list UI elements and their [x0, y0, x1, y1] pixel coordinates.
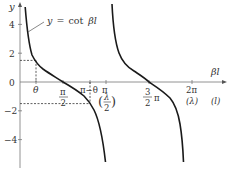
x-tick-pi-half-den: 2 — [61, 98, 66, 108]
x-axis-label: βl — [210, 66, 220, 77]
y-tick-minus-4: −4 — [4, 135, 18, 145]
x-tick-three-halves-num: 3 — [145, 87, 150, 97]
y-axis-arrow-icon — [18, 2, 22, 7]
lambda-half-den: 2 — [104, 103, 109, 113]
cot-chart: y 4 2 0 −2 −4 y = cot βl θ π 2 π−θ π ( λ… — [0, 0, 232, 173]
function-label: y = cot βl — [46, 15, 97, 26]
y-tick-4: 4 — [9, 20, 15, 30]
y-tick-2: 2 — [9, 49, 15, 59]
y-tick-minus-2: −2 — [4, 106, 17, 116]
x-tick-two-pi: 2π — [186, 85, 197, 95]
lambda-half-close-paren: ) — [111, 94, 116, 109]
x-tick-three-halves-den: 2 — [145, 98, 150, 108]
x-tick-three-halves-pi: π — [154, 93, 160, 103]
y-tick-0: 0 — [9, 78, 15, 88]
x-tick-lambda: (λ) — [186, 96, 198, 106]
x-axis-label-l: (l) — [211, 96, 220, 106]
lambda-half-num: λ — [103, 92, 109, 102]
x-axis-arrow-icon — [222, 80, 227, 84]
lambda-half-open-paren: ( — [98, 94, 103, 109]
cot-curve-branch-2 — [112, 4, 184, 162]
x-tick-pi-minus-theta: π−θ — [80, 85, 98, 95]
x-tick-pi-half-num: π — [60, 87, 66, 97]
y-axis-label: y — [8, 1, 15, 12]
x-tick-theta: θ — [33, 85, 39, 95]
label-leader-line — [28, 22, 44, 32]
